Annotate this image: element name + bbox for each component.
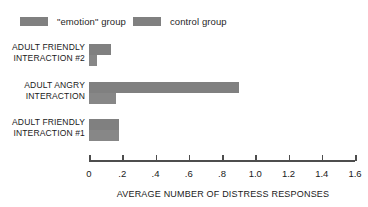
- bar-control-0: [89, 55, 97, 66]
- x-tick-1: [122, 155, 124, 161]
- x-tick-2: [156, 155, 158, 161]
- x-tick-6: [289, 155, 291, 161]
- x-tick-8: [355, 155, 357, 161]
- bar-emotion-0: [89, 44, 111, 55]
- x-tick-3: [189, 155, 191, 161]
- x-tick-4: [222, 155, 224, 161]
- category-label-adult-friendly-1: ADULT FRIENDLY INTERACTION #1: [0, 117, 85, 138]
- x-tick-0: [89, 155, 91, 161]
- x-axis-title: AVERAGE NUMBER OF DISTRESS RESPONSES: [0, 189, 368, 199]
- x-tick-7: [322, 155, 324, 161]
- category-label-adult-angry: ADULT ANGRY INTERACTION: [0, 80, 85, 101]
- bar-control-1: [89, 93, 116, 104]
- x-tick-label-8: 1.6: [335, 168, 368, 179]
- x-tick-5: [255, 155, 257, 161]
- bar-emotion-1: [89, 82, 239, 93]
- category-label-adult-friendly-2: ADULT FRIENDLY INTERACTION #2: [0, 42, 85, 63]
- bar-control-2: [89, 130, 119, 141]
- bar-chart-plot-area: ADULT FRIENDLY INTERACTION #2 ADULT ANGR…: [0, 0, 368, 207]
- bar-emotion-2: [89, 119, 119, 130]
